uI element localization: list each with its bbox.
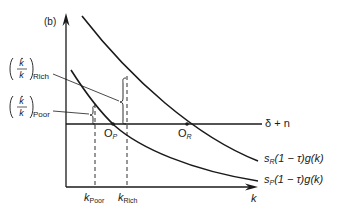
- svg-text:k: k: [19, 70, 24, 80]
- point-or-label: OR: [178, 127, 192, 140]
- rich-growth-fraction: k k: [10, 58, 33, 80]
- rich-brace-icon: [120, 78, 126, 124]
- poor-curve-label: sP(1 − τ)g(k): [264, 173, 323, 186]
- poor-leader: [53, 111, 89, 114]
- poor-curve: [71, 70, 258, 181]
- rich-leader: [53, 74, 119, 101]
- poor-growth-label: Poor: [33, 110, 50, 119]
- poor-growth-fraction: k k: [10, 96, 33, 118]
- rich-growth-label: Rich: [33, 72, 49, 81]
- x-axis-label: k: [251, 192, 257, 204]
- rich-growth-sub: Rich: [33, 72, 49, 81]
- point-or-marker: [185, 122, 189, 126]
- point-op-label: OP: [104, 127, 117, 140]
- point-op-marker: [111, 122, 115, 126]
- poor-growth-sub: Poor: [33, 110, 50, 119]
- depreciation-label: δ + n: [265, 117, 290, 129]
- rich-curve-label: sR(1 − τ)g(k): [264, 152, 324, 165]
- svg-text:k: k: [19, 58, 24, 68]
- poor-brace-icon: [90, 106, 95, 124]
- svg-text:k: k: [19, 108, 24, 118]
- panel-label: (b): [44, 16, 56, 27]
- svg-text:k: k: [19, 96, 24, 106]
- k-rich-tick-label: kRich: [118, 191, 138, 204]
- k-poor-tick-label: kPoor: [84, 191, 104, 204]
